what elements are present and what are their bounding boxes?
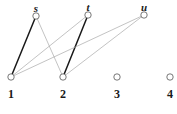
graph-node-s[interactable] [33,13,39,19]
edges-group [11,15,144,77]
graph-node-1[interactable] [8,74,14,80]
graph-edge-1-u [11,15,144,77]
graph-node-u[interactable] [141,12,147,18]
nodes-group [8,12,173,80]
graph-node-3[interactable] [114,74,120,80]
graph-canvas [0,0,177,114]
graph-edge-1-t [11,15,88,77]
bipartite-graph-figure: stu1234 [0,0,177,114]
graph-node-2[interactable] [60,74,66,80]
graph-node-4[interactable] [167,74,173,80]
graph-node-t[interactable] [85,12,91,18]
graph-edge-2-s [36,16,63,77]
graph-edge-1-s [11,16,36,77]
